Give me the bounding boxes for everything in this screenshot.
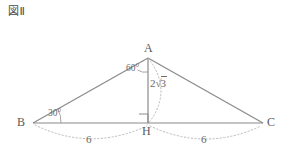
altitude-length-label: 2√3 — [150, 78, 167, 89]
segment-length-hc: 6 — [201, 134, 207, 145]
angle-label-b: 30° — [48, 108, 61, 118]
vertex-label-c: C — [267, 116, 275, 128]
vertex-label-a: A — [144, 42, 153, 54]
sqrt-expression: 2√3 — [150, 78, 167, 89]
figure-page: 図Ⅱ A B C H 60° 30° 2√3 6 6 — [0, 0, 293, 162]
vertex-label-h: H — [142, 125, 151, 137]
segment-ac — [148, 58, 263, 123]
angle-label-a: 60° — [126, 63, 139, 73]
segment-length-bh: 6 — [86, 134, 92, 145]
radicand: 3 — [161, 76, 168, 89]
vertex-label-b: B — [17, 116, 25, 128]
right-angle-marker-h — [139, 114, 148, 123]
dotted-arc-altitude — [148, 58, 161, 124]
